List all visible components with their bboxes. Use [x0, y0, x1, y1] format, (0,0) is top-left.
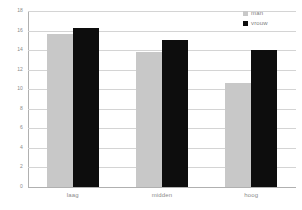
x-tick-label-laag: laag — [28, 191, 117, 199]
y-tick-label: 12 — [17, 67, 23, 72]
vrouw-swatch-icon — [243, 21, 248, 26]
legend-item-man[interactable]: man — [243, 9, 293, 18]
bar-midden-vrouw[interactable] — [162, 40, 188, 187]
bar-chart: 024681012141618 laagmiddenhoog man vrouw — [0, 0, 302, 210]
bar-midden-man[interactable] — [136, 52, 162, 187]
y-tick-label: 16 — [17, 28, 23, 33]
man-swatch-icon — [243, 11, 248, 16]
legend-label-man: man — [251, 10, 263, 17]
y-tick-label: 4 — [20, 145, 23, 150]
plot-area — [28, 11, 296, 187]
bar-hoog-man[interactable] — [225, 83, 251, 187]
bar-group — [225, 11, 277, 187]
bar-hoog-vrouw[interactable] — [251, 50, 277, 187]
y-tick-label: 8 — [20, 106, 23, 111]
x-tick-label-midden: midden — [117, 191, 206, 199]
gridline — [28, 187, 296, 188]
chart-legend: man vrouw — [243, 9, 293, 29]
bar-group — [47, 11, 99, 187]
bar-laag-man[interactable] — [47, 34, 73, 187]
bar-group — [136, 11, 188, 187]
y-tick-label: 6 — [20, 125, 23, 130]
x-axis-category-labels: laagmiddenhoog — [28, 191, 296, 205]
y-axis-tick-labels: 024681012141618 — [0, 0, 26, 210]
x-tick-label-hoog: hoog — [207, 191, 296, 199]
y-tick-label: 14 — [17, 47, 23, 52]
bar-laag-vrouw[interactable] — [73, 28, 99, 187]
legend-label-vrouw: vrouw — [251, 20, 268, 27]
y-tick-label: 18 — [17, 8, 23, 13]
legend-item-vrouw[interactable]: vrouw — [243, 19, 293, 28]
y-tick-label: 0 — [20, 184, 23, 189]
y-tick-label: 2 — [20, 164, 23, 169]
y-tick-label: 10 — [17, 86, 23, 91]
